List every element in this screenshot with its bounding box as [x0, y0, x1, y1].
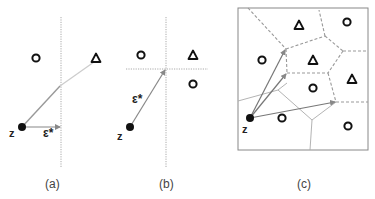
circle-point	[309, 84, 316, 91]
circle-point	[32, 54, 39, 61]
query-label: z	[242, 123, 248, 135]
query-label: z	[117, 130, 123, 142]
triangle-point	[189, 51, 198, 60]
panel-a: z ε* (a)	[9, 17, 101, 191]
query-point-z	[18, 123, 26, 131]
candidate-vectors	[250, 50, 335, 118]
figure: z ε* (a) z ε* (b)	[0, 0, 375, 199]
circle-point	[258, 56, 265, 63]
caption-c: (c)	[297, 177, 311, 191]
vector-to-vertex	[250, 50, 285, 118]
caption-a: (a)	[45, 177, 60, 191]
circle-point	[137, 51, 144, 58]
caption-b: (b)	[159, 177, 174, 191]
query-point-z	[246, 114, 254, 122]
line-to-triangle	[60, 62, 94, 86]
epsilon-label: ε*	[43, 126, 54, 140]
vector-to-vertex	[250, 102, 335, 118]
epsilon-label: ε*	[132, 92, 143, 106]
line-to-boundary	[22, 86, 60, 127]
triangle-point	[92, 54, 101, 63]
query-label: z	[9, 127, 15, 139]
panel-b: z ε* (b)	[117, 17, 208, 191]
circle-point	[189, 80, 196, 87]
triangle-point	[295, 21, 304, 30]
query-point-z	[126, 123, 134, 131]
circle-point	[344, 122, 351, 129]
triangle-point	[309, 56, 318, 65]
circle-point	[343, 18, 350, 25]
circle-point	[278, 114, 285, 121]
triangle-point	[348, 75, 357, 84]
panel-c: z (c)	[238, 8, 368, 191]
diagram-canvas: z ε* (a) z ε* (b)	[0, 0, 375, 199]
